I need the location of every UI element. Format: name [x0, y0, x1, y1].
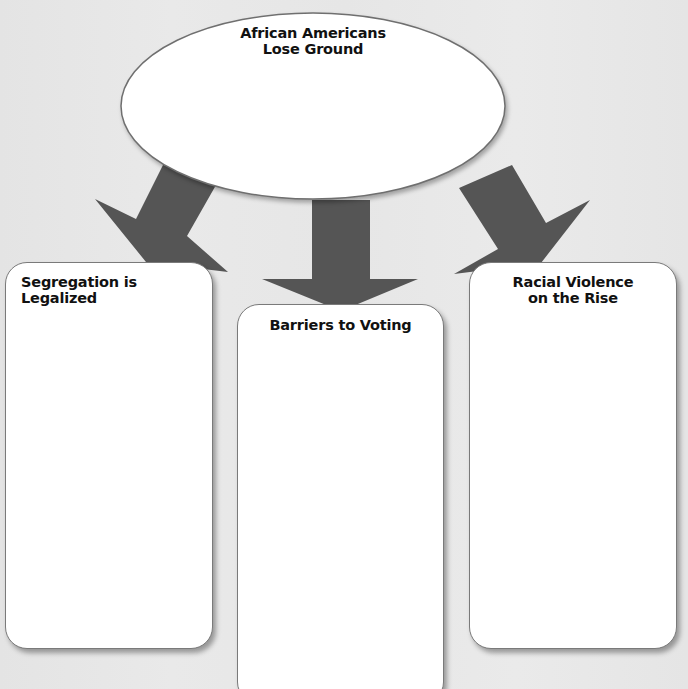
arrow-to-violence — [454, 165, 590, 274]
central-node-title: African Americans Lose Ground — [213, 25, 413, 57]
racial-violence-box-title-line1: Racial Violence — [470, 274, 676, 290]
arrow-to-voting — [262, 200, 418, 311]
central-node-title-line2: Lose Ground — [213, 41, 413, 57]
central-node-title-line1: African Americans — [213, 25, 413, 41]
voting-barriers-box[interactable]: Barriers to Voting — [237, 304, 444, 689]
racial-violence-box[interactable]: Racial Violence on the Rise — [469, 262, 677, 649]
voting-barriers-box-title: Barriers to Voting — [238, 317, 443, 333]
segregation-box[interactable]: Segregation is Legalized — [5, 262, 213, 649]
segregation-box-title-line1: Segregation is Legalized — [21, 274, 212, 306]
segregation-box-title: Segregation is Legalized — [6, 274, 212, 306]
racial-violence-box-title-line2: on the Rise — [470, 290, 676, 306]
racial-violence-box-title: Racial Violence on the Rise — [470, 274, 676, 306]
voting-barriers-box-title-line1: Barriers to Voting — [238, 317, 443, 333]
